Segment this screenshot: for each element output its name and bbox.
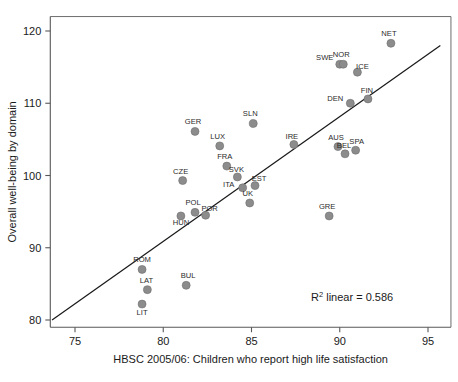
data-point-bel xyxy=(341,150,349,158)
y-axis-title: Overall well-being by domain xyxy=(6,101,18,242)
data-point-net xyxy=(387,39,395,47)
data-point-label-ger: GER xyxy=(185,117,202,126)
x-tick-label: 75 xyxy=(69,335,81,347)
data-point-ger xyxy=(191,127,199,135)
data-point-label-cze: CZE xyxy=(173,167,188,176)
r2-symbol: R xyxy=(311,291,319,303)
y-tick-label: 100 xyxy=(23,170,41,182)
data-point-lit xyxy=(138,300,146,308)
data-point-label-lit: LIT xyxy=(137,308,148,317)
x-tick-label: 95 xyxy=(422,335,434,347)
data-point-label-bul: BUL xyxy=(181,271,196,280)
r2-annotation: R2 linear = 0.586 xyxy=(311,290,393,303)
data-point-label-sln: SLN xyxy=(243,109,258,118)
data-point-svk xyxy=(233,173,241,181)
x-tick-label: 90 xyxy=(334,335,346,347)
x-tick-label: 80 xyxy=(157,335,169,347)
data-point-uk xyxy=(246,199,254,207)
y-tick-label: 90 xyxy=(29,242,41,254)
data-point-nor xyxy=(339,60,347,68)
data-point-lat xyxy=(143,286,151,294)
x-axis-title: HBSC 2005/06: Children who report high l… xyxy=(113,353,388,365)
plot-canvas: 80901001101207580859095 NETSWENORICEFIND… xyxy=(0,0,458,382)
data-point-bul xyxy=(182,281,190,289)
data-point-label-lat: LAT xyxy=(140,276,154,285)
annotations: R2 linear = 0.586 xyxy=(311,290,393,303)
data-point-spa xyxy=(352,146,360,154)
data-point-sln xyxy=(249,119,257,127)
data-point-label-ire: IRE xyxy=(286,132,299,141)
y-tick-label: 120 xyxy=(23,25,41,37)
data-point-label-pol: POL xyxy=(185,198,200,207)
data-point-den xyxy=(346,99,354,107)
plot-frame xyxy=(50,17,451,328)
data-point-label-den: DEN xyxy=(327,94,343,103)
data-point-label-bel: BEL xyxy=(337,141,351,150)
x-tick-label: 85 xyxy=(245,335,257,347)
linear-fit-line xyxy=(52,45,440,320)
data-point-label-fin: FIN xyxy=(361,86,373,95)
scatter-plot-figure: 80901001101207580859095 NETSWENORICEFIND… xyxy=(0,0,458,382)
data-point-label-svk: SVK xyxy=(229,165,244,174)
y-tick-label: 110 xyxy=(24,97,42,109)
y-tick-label: 80 xyxy=(29,314,41,326)
data-point-label-est: EST xyxy=(252,174,267,183)
data-point-label-uk: UK xyxy=(242,189,253,198)
data-point-label-gre: GRE xyxy=(319,202,335,211)
data-point-label-hun: HUN xyxy=(173,218,189,227)
data-point-label-nor: NOR xyxy=(333,50,350,59)
data-point-label-ice: ICE xyxy=(356,62,369,71)
regression-line xyxy=(52,45,440,320)
data-point-lux xyxy=(216,142,224,150)
data-point-pol xyxy=(191,208,199,216)
data-point-label-fra: FRA xyxy=(217,152,233,161)
r2-value-text: linear = 0.586 xyxy=(323,291,393,303)
data-point-label-ita: ITA xyxy=(223,180,235,189)
data-point-label-por: POR xyxy=(201,204,218,213)
data-point-fin xyxy=(364,95,372,103)
data-point-label-swe: SWE xyxy=(316,53,333,62)
data-point-gre xyxy=(325,212,333,220)
data-point-label-rom: ROM xyxy=(133,255,151,264)
data-point-ire xyxy=(290,140,298,148)
data-point-label-net: NET xyxy=(381,29,397,38)
data-point-rom xyxy=(138,265,146,273)
data-point-label-lux: LUX xyxy=(210,132,225,141)
data-point-cze xyxy=(179,177,187,185)
data-point-label-spa: SPA xyxy=(349,137,365,146)
